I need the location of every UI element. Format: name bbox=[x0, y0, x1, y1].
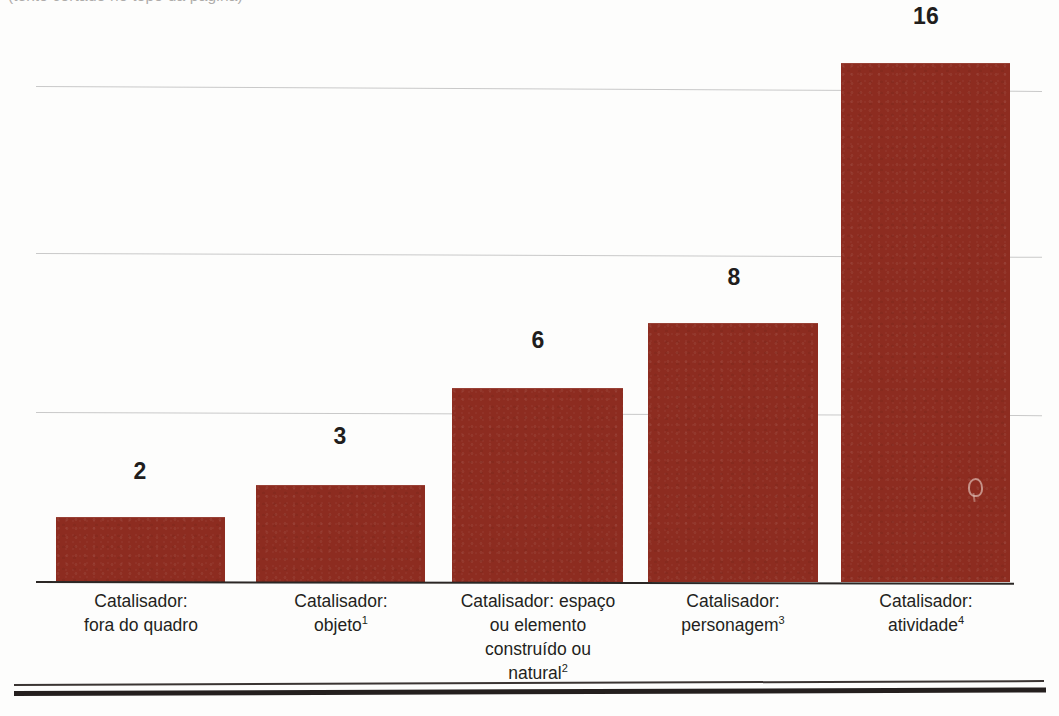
footer-rule-thick bbox=[14, 687, 1046, 696]
x-label-text: personagem bbox=[681, 615, 778, 635]
x-label-line-2: objeto1 bbox=[250, 613, 432, 637]
bar-catalisador-fora-do-quadro[interactable] bbox=[56, 517, 225, 582]
bar-catalisador-espaco-elemento[interactable] bbox=[452, 388, 623, 582]
x-label-text: objeto bbox=[314, 615, 362, 635]
plot-area: 2 3 6 8 16 bbox=[0, 0, 1059, 600]
footnote-marker: 1 bbox=[362, 614, 368, 626]
x-label-line-2: fora do quadro bbox=[50, 613, 232, 637]
x-label-text: natural bbox=[508, 663, 562, 683]
footnote-marker: 2 bbox=[562, 662, 568, 674]
x-label-text: atividade bbox=[888, 615, 958, 635]
x-label-line-2: atividade4 bbox=[835, 613, 1017, 637]
x-label-catalisador-fora-do-quadro: Catalisador: fora do quadro bbox=[50, 589, 232, 637]
x-label-line-1: Catalisador: bbox=[250, 589, 432, 613]
x-label-line-2: personagem3 bbox=[642, 613, 824, 637]
footnote-marker: 4 bbox=[958, 614, 964, 626]
footnote-marker: 3 bbox=[779, 614, 785, 626]
bar-catalisador-atividade[interactable] bbox=[841, 63, 1010, 582]
x-label-line-1: Catalisador: bbox=[50, 589, 232, 613]
x-label-catalisador-espaco-elemento: Catalisador: espaço ou elemento construí… bbox=[440, 589, 636, 685]
x-label-line-1: Catalisador: espaço bbox=[440, 589, 636, 613]
x-label-line-1: Catalisador: bbox=[642, 589, 824, 613]
x-label-line-2: ou elemento bbox=[440, 613, 636, 637]
value-label-bar-4: 8 bbox=[694, 264, 774, 291]
value-label-bar-1: 2 bbox=[100, 458, 180, 485]
x-label-line-1: Catalisador: bbox=[835, 589, 1017, 613]
chart-page: (texto cortado no topo da página) 2 3 6 … bbox=[0, 0, 1059, 716]
value-label-bar-2: 3 bbox=[300, 423, 380, 450]
bar-catalisador-personagem[interactable] bbox=[648, 323, 818, 582]
x-label-catalisador-personagem: Catalisador: personagem3 bbox=[642, 589, 824, 637]
value-label-bar-3: 6 bbox=[498, 327, 578, 354]
bar-catalisador-objeto[interactable] bbox=[256, 485, 425, 582]
x-label-catalisador-objeto: Catalisador: objeto1 bbox=[250, 589, 432, 637]
x-label-line-3: construído ou bbox=[440, 637, 636, 661]
x-axis-baseline bbox=[36, 581, 1014, 585]
value-label-bar-5: 16 bbox=[886, 3, 966, 30]
x-label-catalisador-atividade: Catalisador: atividade4 bbox=[835, 589, 1017, 637]
